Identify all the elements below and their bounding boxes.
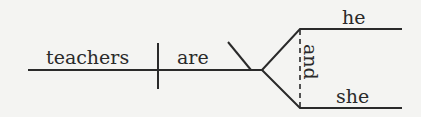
lower-branch-line [262,70,402,108]
subject-word: teachers [46,46,129,68]
conjunction-word: and [300,44,322,80]
verb-word: are [177,46,209,68]
upper-branch-line [262,29,402,70]
complement-word-1: he [342,6,365,28]
sentence-diagram: teachers are he she and [0,0,421,117]
complement-slant-line [228,42,251,70]
complement-word-2: she [336,85,369,107]
